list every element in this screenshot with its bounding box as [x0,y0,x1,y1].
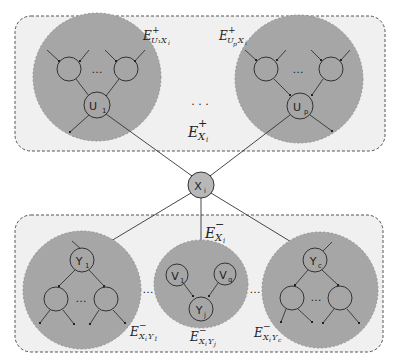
svg-text:E: E [204,225,215,241]
svg-text:+: + [228,25,236,35]
svg-text:…: … [76,292,87,305]
svg-text:V: V [219,269,227,282]
svg-text:1: 1 [102,107,106,115]
svg-text:+: + [152,25,160,35]
node-u1-label: U [89,100,97,113]
svg-text:−: − [199,325,207,335]
ellipsis-left: … [143,283,154,296]
svg-text:−: − [263,321,271,331]
svg-text:…: … [311,291,322,304]
svg-text:+: + [198,117,207,130]
svg-text:q: q [228,276,232,284]
svg-text:i: i [245,39,247,46]
svg-text:Y: Y [309,255,317,268]
node-xi: X i [188,172,214,198]
svg-text:X: X [198,337,205,346]
cluster-u1: … U 1 [33,13,161,141]
svg-text:p: p [233,40,237,48]
svg-text:X: X [138,332,145,341]
svg-text:E: E [253,326,263,340]
markov-blanket-diagram: … U 1 … U p . . . E + U₁X i E + U p [0,0,397,364]
svg-text:X: X [237,36,244,45]
top-ellipsis: . . . [191,95,208,108]
svg-text:Y: Y [195,304,203,317]
ellipsis-right: … [250,283,261,296]
svg-text:c: c [318,262,322,270]
svg-text:X: X [194,180,202,193]
svg-text:X: X [262,333,269,342]
svg-text:−: − [215,218,224,231]
svg-text:X: X [214,232,223,243]
cluster-yj: V 1 V q Y j [154,240,248,328]
svg-text:i: i [269,336,271,343]
svg-text:i: i [205,340,207,347]
svg-text:−: − [139,320,147,330]
cluster-up: … U p [235,15,363,143]
ellipsis: … [293,63,304,76]
svg-text:E: E [129,325,139,339]
svg-text:U₁X: U₁X [151,36,167,45]
svg-text:1: 1 [85,262,89,270]
svg-text:j: j [203,311,206,319]
svg-text:p: p [304,108,309,116]
svg-text:1: 1 [180,277,184,285]
ellipsis: … [92,63,103,76]
svg-text:i: i [223,237,225,245]
cluster-y1: Y 1 … [23,231,141,349]
svg-text:i: i [145,335,147,342]
svg-text:X: X [197,131,206,142]
svg-text:i: i [204,187,206,195]
svg-text:E: E [187,124,198,140]
svg-text:V: V [171,270,179,283]
svg-text:i: i [168,39,170,46]
cluster-yc: Y c … [262,232,378,348]
svg-text:U: U [293,101,301,114]
svg-text:E: E [189,330,199,344]
svg-text:i: i [206,136,208,144]
svg-text:Y: Y [75,255,83,268]
svg-text:1: 1 [154,335,158,342]
